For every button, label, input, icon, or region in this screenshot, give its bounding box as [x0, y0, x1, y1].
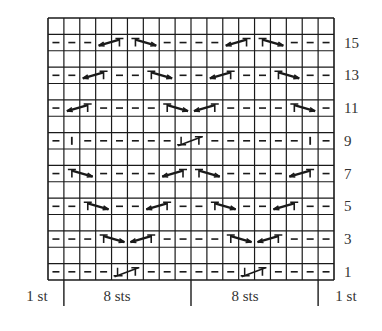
row-label-3: 3 — [344, 231, 352, 247]
purl-cross-twist-icon — [114, 268, 140, 277]
repeat-markers — [64, 280, 318, 306]
chart-grid — [48, 18, 334, 280]
row-label-1: 1 — [344, 264, 352, 280]
repeat-label: 1 st — [26, 287, 47, 305]
knitting-chart — [0, 0, 382, 331]
repeat-label: 8 sts — [231, 287, 258, 305]
purl-cross-twist-icon — [177, 137, 203, 146]
row-label-11: 11 — [344, 100, 358, 116]
row-label-7: 7 — [344, 166, 352, 182]
repeat-label: 8 sts — [103, 287, 130, 305]
row-label-5: 5 — [344, 198, 352, 214]
row-label-15: 15 — [344, 35, 359, 51]
row-label-13: 13 — [344, 67, 359, 83]
row-label-9: 9 — [344, 133, 352, 149]
purl-cross-twist-icon — [241, 268, 267, 277]
repeat-label: 1 st — [335, 287, 356, 305]
